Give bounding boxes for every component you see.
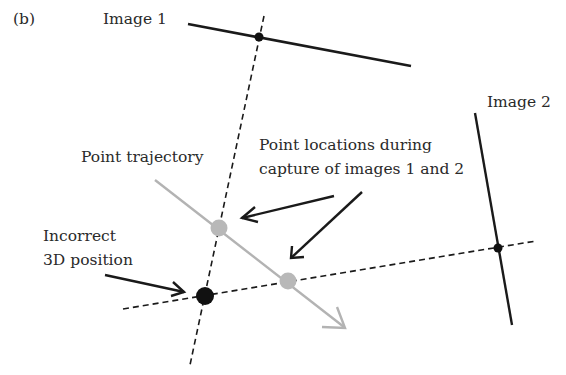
image1-plane-line [188, 24, 411, 66]
image2-label: Image 2 [487, 91, 551, 113]
diagram-canvas [0, 0, 566, 375]
image1-ray-dashed [190, 16, 264, 365]
panel-label: (b) [13, 8, 35, 30]
annotation-arrow-location2 [291, 192, 362, 258]
annotation-arrow-location1 [242, 196, 334, 218]
trajectory-line [155, 180, 344, 327]
trajectory-label: Point trajectory [81, 146, 204, 168]
image1-label: Image 1 [103, 8, 167, 30]
annotation-arrow-incorrect [105, 275, 184, 292]
point-location-image2 [280, 273, 297, 290]
image2-projection-point [494, 244, 503, 253]
image1-projection-point [255, 33, 264, 42]
image2-ray-dashed [123, 241, 536, 309]
image2-plane-line [475, 113, 512, 325]
point-locations-label-line2: capture of images 1 and 2 [259, 158, 464, 180]
point-locations-label-line1: Point locations during [259, 134, 432, 156]
incorrect-3d-position-point [196, 287, 214, 305]
incorrect-label-line1: Incorrect [43, 225, 116, 247]
point-location-image1 [211, 220, 228, 237]
incorrect-label-line2: 3D position [43, 249, 133, 271]
